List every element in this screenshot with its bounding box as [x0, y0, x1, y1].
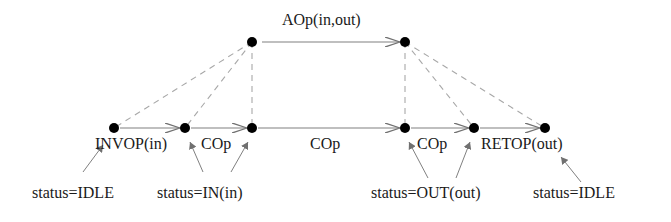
label-cop-2: COp: [417, 136, 447, 152]
label-cop-1: COp: [201, 136, 231, 152]
refinement-lines: [114, 42, 545, 128]
label-retop: RETOP(out): [481, 136, 562, 152]
node-b3: [247, 123, 257, 133]
dashed-line-a2-b5: [405, 42, 474, 128]
dashed-line-a1-b2: [185, 42, 252, 128]
status-in: status=IN(in): [157, 185, 242, 201]
label-invop: INVOP(in): [95, 136, 167, 152]
pointer-idle-end: [561, 157, 581, 182]
status-out: status=OUT(out): [371, 185, 480, 201]
state-nodes: [109, 37, 550, 133]
node-abstract-post: [400, 37, 410, 47]
node-b4: [400, 123, 410, 133]
dashed-line-a1-b1: [114, 42, 252, 128]
node-b2: [180, 123, 190, 133]
dashed-line-a2-b6: [405, 42, 545, 128]
label-cop-mid: COp: [310, 136, 340, 152]
node-abstract-pre: [247, 37, 257, 47]
node-b6: [540, 123, 550, 133]
node-b5: [469, 123, 479, 133]
label-aop: AOp(in,out): [282, 12, 361, 28]
node-b1: [109, 123, 119, 133]
status-idle-start: status=IDLE: [32, 185, 114, 201]
status-idle-end: status=IDLE: [533, 185, 615, 201]
pointer-in-2: [231, 142, 248, 172]
pointer-out-2: [456, 142, 470, 178]
